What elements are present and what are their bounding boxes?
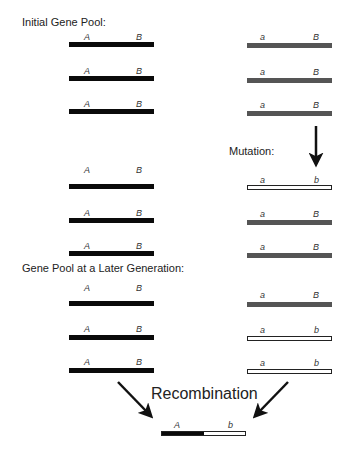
arrows-layer [0,0,351,460]
recombination-right-arrow-icon [258,382,288,413]
recombination-left-arrow-icon [118,382,148,413]
